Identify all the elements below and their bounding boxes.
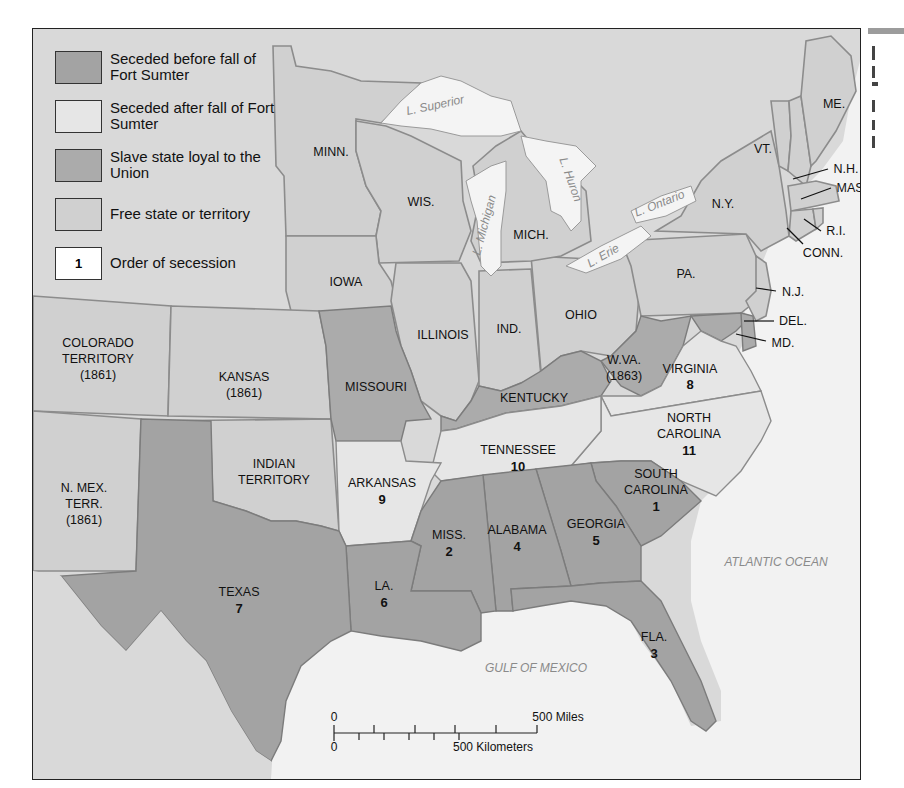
strip-mark <box>872 82 878 86</box>
legend-label-order: Order of secession <box>110 255 280 271</box>
label-wva-2: (1863) <box>606 369 642 383</box>
strip-mark <box>872 100 875 112</box>
label-vt: VT. <box>754 142 772 156</box>
label-colorado-3: (1861) <box>80 368 116 382</box>
strip-mark <box>872 46 875 60</box>
label-colorado-1: COLORADO <box>62 336 134 350</box>
label-ncarolina-1: NORTH <box>667 411 711 425</box>
label-minn: MINN. <box>313 145 348 159</box>
order-alabama: 4 <box>513 539 521 554</box>
label-scarolina-2: CAROLINA <box>624 483 689 497</box>
adjacent-page-edge <box>868 28 904 178</box>
strip-mark <box>872 120 875 130</box>
label-tennessee: TENNESSEE <box>480 443 556 457</box>
label-ny: N.Y. <box>712 197 735 211</box>
order-virginia: 8 <box>686 377 693 392</box>
label-fla: FLA. <box>641 630 667 644</box>
label-indian-1: INDIAN <box>253 457 295 471</box>
label-ind: IND. <box>497 322 522 336</box>
label-missouri: MISSOURI <box>345 380 407 394</box>
label-nj: N.J. <box>782 285 804 299</box>
legend-label-early: Seceded before fall of Fort Sumter <box>110 51 280 83</box>
label-del: DEL. <box>779 314 807 328</box>
label-indian-2: TERRITORY <box>238 473 310 487</box>
label-texas: TEXAS <box>219 585 260 599</box>
legend-label-free: Free state or territory <box>110 206 280 222</box>
label-georgia: GEORGIA <box>567 517 626 531</box>
order-texas: 7 <box>235 601 242 616</box>
legend-label-loyal: Slave state loyal to the Union <box>110 149 280 181</box>
order-scarolina: 1 <box>652 499 659 514</box>
label-kentucky: KENTUCKY <box>500 391 569 405</box>
label-virginia: VIRGINIA <box>663 362 719 376</box>
secession-map: MINN. WIS. MICH. IOWA ILLINOIS IND. OHIO… <box>32 28 861 780</box>
label-atlantic-ocean: ATLANTIC OCEAN <box>723 555 827 569</box>
order-la: 6 <box>380 595 387 610</box>
label-wva-1: W.VA. <box>607 353 641 367</box>
legend-swatch-early <box>55 51 102 84</box>
legend-swatch-free <box>55 198 102 231</box>
label-arkansas: ARKANSAS <box>348 476 416 490</box>
legend-swatch-late <box>55 100 102 133</box>
label-ohio: OHIO <box>565 308 597 322</box>
legend-label-late: Seceded after fall of Fort Sumter <box>110 100 280 132</box>
legend-item-loyal: Slave state loyal to the Union <box>55 143 280 187</box>
order-miss: 2 <box>445 544 452 559</box>
strip-mark <box>872 136 875 148</box>
order-georgia: 5 <box>592 533 599 548</box>
order-arkansas: 9 <box>378 492 385 507</box>
legend-swatch-loyal <box>55 149 102 182</box>
state-kansas <box>168 306 331 419</box>
label-kansas-1: KANSAS <box>219 370 270 384</box>
label-alabama: ALABAMA <box>487 523 547 537</box>
strip-bar <box>868 28 904 34</box>
label-nh: N.H. <box>834 162 859 176</box>
label-nmex-3: (1861) <box>66 513 102 527</box>
order-ncarolina: 11 <box>682 443 696 458</box>
state-delaware <box>741 313 756 351</box>
scale-miles-label: 500 Miles <box>532 710 583 724</box>
label-pa: PA. <box>676 267 695 281</box>
label-scarolina-1: SOUTH <box>634 467 678 481</box>
map-legend: Seceded before fall of Fort Sumter Seced… <box>55 45 280 290</box>
legend-item-free: Free state or territory <box>55 192 280 236</box>
label-me: ME. <box>823 97 845 111</box>
strip-mark <box>872 66 875 78</box>
scale-miles-zero: 0 <box>331 710 338 724</box>
label-ri: R.I. <box>826 224 845 238</box>
label-illinois: ILLINOIS <box>417 328 468 342</box>
label-mich: MICH. <box>513 228 548 242</box>
label-gulf-of-mexico: GULF OF MEXICO <box>485 661 587 675</box>
label-nmex-1: N. MEX. <box>61 481 108 495</box>
scale-km-label: 500 Kilometers <box>453 740 533 754</box>
legend-swatch-order: 1 <box>55 247 102 280</box>
scale-km-zero: 0 <box>331 740 338 754</box>
label-miss: MISS. <box>432 528 466 542</box>
order-fla: 3 <box>650 646 657 661</box>
legend-item-late: Seceded after fall of Fort Sumter <box>55 94 280 138</box>
legend-item-order: 1 Order of secession <box>55 241 280 285</box>
label-ncarolina-2: CAROLINA <box>657 427 722 441</box>
label-wis: WIS. <box>407 195 434 209</box>
legend-item-early: Seceded before fall of Fort Sumter <box>55 45 280 89</box>
label-nmex-2: TERR. <box>65 497 103 511</box>
label-kansas-2: (1861) <box>226 386 262 400</box>
label-colorado-2: TERRITORY <box>62 352 134 366</box>
label-mass: MASS. <box>837 181 860 195</box>
label-md: MD. <box>772 336 795 350</box>
label-conn: CONN. <box>803 246 843 260</box>
order-tennessee: 10 <box>511 459 525 474</box>
label-la: LA. <box>375 579 394 593</box>
label-iowa: IOWA <box>330 275 364 289</box>
